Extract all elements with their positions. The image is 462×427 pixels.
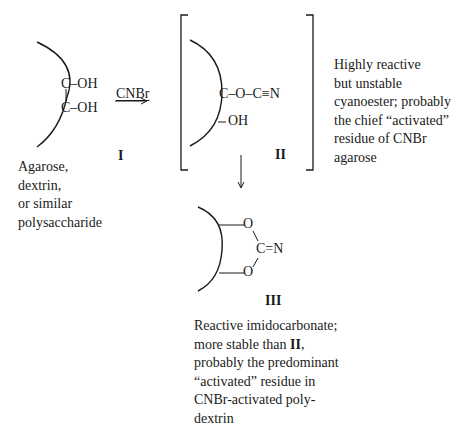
caption-I-line: polysaccharide — [18, 214, 102, 233]
caption-I-line: Agarose, — [18, 158, 102, 177]
caption-II-line: the chief “activated” — [334, 112, 451, 131]
caption-III-text: probably the predominant — [194, 355, 339, 370]
imino-carbon-III: C=N — [256, 241, 283, 257]
caption-III: Reactive imidocarbonate; more stable tha… — [194, 317, 339, 427]
caption-III-text: CNBr-activated poly- — [194, 392, 315, 407]
polysaccharide-backbone-III — [198, 207, 222, 291]
cyanoester-group-II: C–O–C≡N — [219, 86, 280, 102]
bracket-right — [306, 15, 313, 170]
caption-III-line: dextrin — [194, 410, 339, 427]
caption-III-text: , — [301, 337, 305, 352]
caption-II-line: cyanoester; probably — [334, 93, 451, 112]
caption-I-line: dextrin, — [18, 177, 102, 196]
polysaccharide-backbone-II — [190, 40, 222, 146]
bracket-left — [181, 15, 188, 170]
oxygen-top-III: O — [243, 216, 253, 232]
caption-III-text: dextrin — [194, 411, 234, 426]
caption-II-line: agarose — [334, 149, 451, 168]
caption-III-line: Reactive imidocarbonate; — [194, 317, 339, 336]
structure-label-I: I — [118, 148, 123, 164]
caption-III-line: CNBr-activated poly- — [194, 391, 339, 410]
structure-label-II: II — [275, 147, 286, 163]
caption-II: Highly reactive but unstable cyanoester;… — [334, 56, 451, 167]
caption-III-line: “activated” residue in — [194, 373, 339, 392]
reagent-label: CNBr — [116, 85, 149, 102]
c-oh-group-top-I: C–OH — [61, 76, 98, 92]
caption-III-line: more stable than II, — [194, 336, 339, 355]
o-c-bond-bottom-III — [253, 258, 258, 267]
oh-group-II: OH — [228, 113, 248, 129]
o-c-bond-top-III — [253, 231, 258, 241]
caption-III-text: more stable than — [194, 337, 290, 352]
structure-label-III: III — [265, 293, 281, 309]
caption-I-line: or similar — [18, 195, 102, 214]
caption-II-line: residue of CNBr — [334, 130, 451, 149]
caption-II-line: but unstable — [334, 75, 451, 94]
caption-II-line: Highly reactive — [334, 56, 451, 75]
caption-III-ref-II: II — [290, 337, 301, 352]
caption-III-text: Reactive imidocarbonate; — [194, 318, 337, 333]
caption-III-text: “activated” residue in — [194, 374, 315, 389]
polysaccharide-backbone-I — [37, 42, 70, 147]
c-oh-group-bottom-I: C–OH — [61, 100, 98, 116]
caption-I: Agarose, dextrin, or similar polysacchar… — [18, 158, 102, 232]
oxygen-bottom-III: O — [243, 264, 253, 280]
caption-III-line: probably the predominant — [194, 354, 339, 373]
